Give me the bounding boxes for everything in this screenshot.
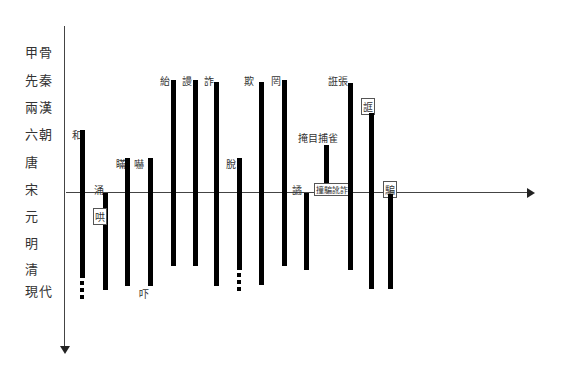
continuation-dots-icon bbox=[237, 273, 241, 294]
continuation-dots-icon bbox=[80, 281, 84, 302]
word-bar bbox=[282, 80, 287, 266]
period-label: 先秦 bbox=[25, 70, 53, 89]
period-label: 六朝 bbox=[25, 124, 53, 143]
word-bar bbox=[259, 82, 264, 285]
period-label: 清 bbox=[25, 259, 39, 278]
word-label: 譎 bbox=[292, 182, 302, 197]
period-label: 宋 bbox=[25, 179, 39, 198]
period-label: 現代 bbox=[25, 281, 53, 300]
word-bar bbox=[171, 80, 176, 266]
x-axis-arrow-icon bbox=[527, 188, 535, 198]
word-bar bbox=[237, 158, 242, 270]
word-label: 欺 bbox=[244, 73, 254, 88]
word-label: 嚇 bbox=[134, 156, 144, 171]
word-bar bbox=[369, 113, 374, 289]
period-label: 明 bbox=[25, 233, 39, 252]
word-label: 詐 bbox=[204, 73, 214, 88]
word-label: 紿 bbox=[160, 73, 170, 88]
period-label: 甲骨 bbox=[25, 42, 53, 61]
period-label: 唐 bbox=[25, 152, 39, 171]
word-label: 掩目捕雀 bbox=[298, 130, 338, 145]
word-label: 脫 bbox=[226, 156, 236, 171]
word-label: 吓 bbox=[139, 286, 149, 301]
word-bar bbox=[80, 130, 85, 278]
period-label: 元 bbox=[25, 206, 39, 225]
word-label: 罔 bbox=[271, 73, 281, 88]
word-bar bbox=[125, 158, 130, 286]
word-label: 誑張 bbox=[328, 73, 348, 88]
period-label: 兩漢 bbox=[25, 97, 53, 116]
word-bar bbox=[148, 158, 153, 286]
y-axis-line bbox=[64, 26, 65, 348]
word-label: 哄 bbox=[93, 208, 107, 225]
word-bar bbox=[304, 193, 309, 270]
word-bar bbox=[193, 80, 198, 266]
word-bar bbox=[214, 82, 219, 286]
word-bar bbox=[348, 83, 353, 270]
word-bar bbox=[388, 194, 393, 289]
word-label: 謾 bbox=[182, 73, 192, 88]
y-axis-arrow-icon bbox=[60, 346, 70, 354]
word-label: 撞騙訛詐 bbox=[314, 183, 350, 196]
